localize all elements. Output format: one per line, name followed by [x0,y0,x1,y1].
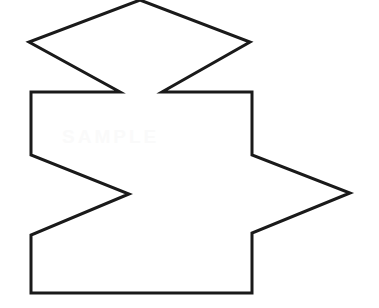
figure-canvas: SAMPLE [0,0,379,308]
irregular-polygon-outline[interactable] [29,0,350,293]
polygon-svg [0,0,379,308]
